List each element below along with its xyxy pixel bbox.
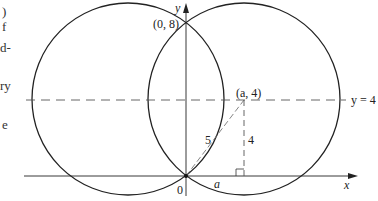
origin-point (184, 174, 188, 178)
hypotenuse-dashed (186, 100, 244, 176)
y-axis-arrow-icon (183, 3, 189, 13)
height-label: 4 (248, 133, 254, 147)
line-label: y = 4 (351, 93, 376, 107)
x-axis-label: x (343, 178, 350, 192)
y-axis-label: y (174, 1, 181, 15)
origin-label: 0 (177, 183, 183, 197)
left-circle (32, 3, 224, 195)
x-axis-arrow-icon (348, 173, 358, 179)
top-intersection-label: (0, 8) (153, 17, 179, 31)
base-label: a (214, 177, 220, 191)
point-label: (a, 4) (236, 86, 261, 100)
hypotenuse-label: 5 (205, 133, 211, 147)
right-angle-marker (236, 169, 244, 176)
circles-diagram: y (0, 8) (a, 4) y = 4 5 4 a 0 x (0, 0, 378, 201)
